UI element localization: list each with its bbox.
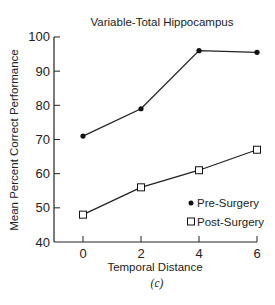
y-tick-label: 100 xyxy=(28,29,50,44)
y-ticks: 405060708090100 xyxy=(28,29,60,249)
x-tick-label: 4 xyxy=(195,246,202,261)
data-point xyxy=(138,184,145,191)
legend-post-surgery: Post-Surgery xyxy=(197,216,264,228)
y-tick-label: 90 xyxy=(36,64,50,79)
legend-pre-surgery: Pre-Surgery xyxy=(197,197,259,209)
data-series xyxy=(80,48,261,218)
legend: Pre-Surgery Post-Surgery xyxy=(188,197,265,228)
y-tick-label: 50 xyxy=(36,200,50,215)
post-surgery-marker-icon xyxy=(188,218,195,225)
data-point xyxy=(80,133,85,138)
data-point xyxy=(254,146,261,153)
chart: Variable-Total Hippocampus 4050607080901… xyxy=(0,0,275,305)
y-tick-label: 70 xyxy=(36,132,50,147)
y-axis-label: Mean Percent Correct Performance xyxy=(8,49,20,231)
x-tick-label: 6 xyxy=(253,246,260,261)
data-point xyxy=(138,106,143,111)
x-axis-label: Temporal Distance xyxy=(107,261,202,273)
x-tick-label: 2 xyxy=(137,246,144,261)
y-tick-label: 40 xyxy=(36,235,50,250)
y-tick-label: 80 xyxy=(36,98,50,113)
data-point xyxy=(196,167,203,174)
y-tick-label: 60 xyxy=(36,166,50,181)
x-ticks: 0246 xyxy=(79,236,260,261)
data-point xyxy=(80,211,87,218)
series-line xyxy=(83,51,257,136)
x-tick-label: 0 xyxy=(79,246,86,261)
data-point xyxy=(196,48,201,53)
chart-title: Variable-Total Hippocampus xyxy=(91,16,234,28)
caption: (c) xyxy=(151,277,164,290)
data-point xyxy=(254,50,259,55)
pre-surgery-marker-icon xyxy=(189,201,194,206)
